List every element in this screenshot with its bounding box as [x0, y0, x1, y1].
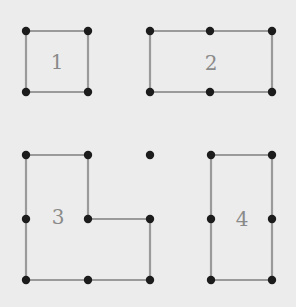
vertex-dot: [268, 27, 276, 35]
shape-3: 3: [22, 151, 154, 284]
shape-label: 3: [52, 205, 65, 229]
vertex-dot: [84, 88, 92, 96]
shape-label: 4: [236, 207, 249, 231]
vertex-dot: [146, 27, 154, 35]
vertex-dot: [206, 27, 214, 35]
vertex-dot: [22, 88, 30, 96]
vertex-dot: [268, 276, 276, 284]
vertex-dot: [146, 215, 154, 223]
vertex-dot: [22, 151, 30, 159]
vertex-dot: [206, 88, 214, 96]
vertex-dot: [207, 276, 215, 284]
isolated-vertex-dot: [146, 151, 154, 159]
shape-4: 4: [207, 151, 276, 284]
shape-label: 1: [51, 50, 64, 74]
vertex-dot: [22, 276, 30, 284]
vertex-dot: [207, 215, 215, 223]
vertex-dot: [84, 151, 92, 159]
vertex-dot: [207, 151, 215, 159]
shape-1: 1: [22, 27, 92, 96]
vertex-dot: [146, 88, 154, 96]
vertex-dot: [268, 151, 276, 159]
shape-2: 2: [146, 27, 276, 96]
grid-shapes-diagram: 1234: [0, 0, 296, 307]
shape-label: 2: [205, 51, 218, 75]
vertex-dot: [22, 215, 30, 223]
vertex-dot: [268, 215, 276, 223]
vertex-dot: [22, 27, 30, 35]
diagram-canvas: 1234: [0, 0, 296, 307]
vertex-dot: [84, 276, 92, 284]
vertex-dot: [146, 276, 154, 284]
vertex-dot: [84, 27, 92, 35]
vertex-dot: [84, 215, 92, 223]
vertex-dot: [268, 88, 276, 96]
